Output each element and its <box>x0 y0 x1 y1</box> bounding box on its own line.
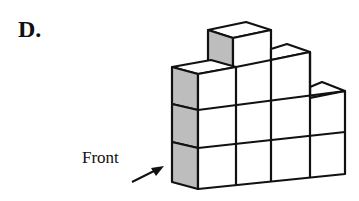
side-face-row-3 <box>172 67 198 110</box>
cube-stack-diagram <box>0 0 359 201</box>
front-arrow-icon <box>132 166 164 182</box>
side-face-row-2 <box>172 104 198 148</box>
side-face-row-1 <box>172 142 198 189</box>
